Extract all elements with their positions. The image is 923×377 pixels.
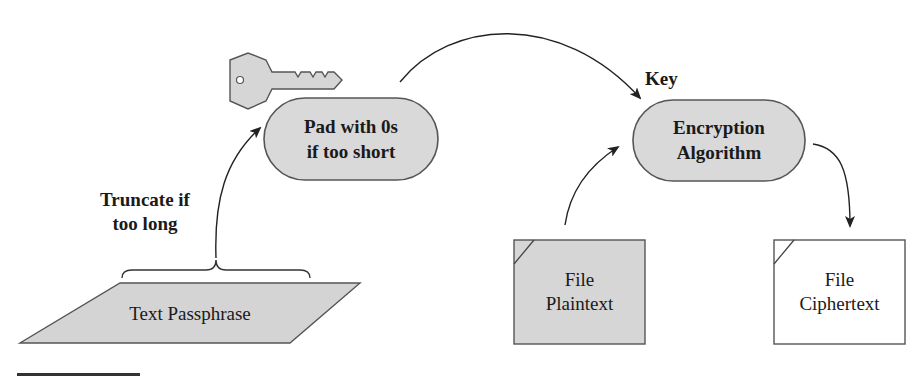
brace-icon xyxy=(122,260,310,278)
passphrase-node: Text Passphrase xyxy=(70,302,310,326)
footer-rule xyxy=(17,373,140,376)
arrow-brace-to-pad xyxy=(216,128,260,258)
truncate-annotation: Truncate if too long xyxy=(85,188,205,236)
arrow-pad-to-key xyxy=(400,34,640,98)
arrow-plaintext-to-encryption xyxy=(565,147,618,225)
plaintext-node: File Plaintext xyxy=(514,268,645,316)
plaintext-node-line2: Plaintext xyxy=(514,292,645,316)
pad-node-line2: if too short xyxy=(264,139,438,164)
pad-node: Pad with 0s if too short xyxy=(264,114,438,164)
encryption-node-line2: Algorithm xyxy=(633,140,805,165)
encryption-node: Encryption Algorithm xyxy=(633,115,805,165)
plaintext-node-line1: File xyxy=(514,268,645,292)
ciphertext-node-line2: Ciphertext xyxy=(774,292,905,316)
truncate-line1: Truncate if xyxy=(85,188,205,212)
ciphertext-node-line1: File xyxy=(774,268,905,292)
key-label: Key xyxy=(645,67,695,91)
truncate-line2: too long xyxy=(85,212,205,236)
arrow-encryption-to-ciphertext xyxy=(813,144,850,226)
pad-node-line1: Pad with 0s xyxy=(264,114,438,139)
ciphertext-node: File Ciphertext xyxy=(774,268,905,316)
encryption-node-line1: Encryption xyxy=(633,115,805,140)
